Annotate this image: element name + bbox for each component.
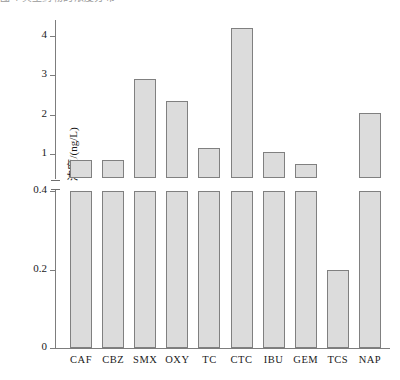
bar-segment-upper: [295, 164, 317, 178]
y-axis-tick: 2: [50, 115, 55, 116]
plot-area: 00.20.41234 浓度/(ng/L) CAFCBZSMXOXYTCCTCI…: [55, 20, 390, 349]
bar-segment-lower: [166, 191, 188, 348]
y-axis-tick: 1: [50, 154, 55, 155]
caption-fragment-text: 图 4 典型药物的浓度分布: [0, 0, 115, 3]
caption-fragment: 图 4 典型药物的浓度分布: [0, 0, 400, 9]
y-axis-tick: 0.4: [50, 191, 55, 192]
bar-segment-lower: [295, 191, 317, 348]
y-axis-tick: 0: [50, 348, 55, 349]
y-axis-tick-label: 1: [42, 147, 48, 158]
bar: [231, 20, 253, 349]
bar: [263, 20, 285, 349]
bar-segment-lower: [70, 191, 92, 348]
bar: [166, 20, 188, 349]
x-axis-tick-label: NAP: [347, 354, 393, 366]
y-axis-tick: 0.2: [50, 270, 55, 271]
bar: [327, 20, 349, 349]
bar: [134, 20, 156, 349]
y-axis-tick-label: 0.2: [33, 263, 47, 274]
bar-segment-lower: [102, 191, 124, 348]
bar-segment-upper: [102, 160, 124, 178]
bar: [198, 20, 220, 349]
bar-segment-lower: [198, 191, 220, 348]
bar-segment-upper: [166, 101, 188, 178]
bar-segment-upper: [263, 152, 285, 178]
bar-segment-lower: [327, 270, 349, 349]
bar-segment-lower: [134, 191, 156, 348]
y-axis-break-line: [51, 180, 60, 181]
bar-chart-figure: 图 4 典型药物的浓度分布 00.20.41234 浓度/(ng/L) CAFC…: [0, 0, 400, 380]
y-axis-tick-label: 4: [42, 29, 48, 40]
bar-segment-lower: [263, 191, 285, 348]
y-axis-tick-label: 0.4: [33, 184, 47, 195]
bar-segment-upper: [198, 148, 220, 178]
bar-segment-upper: [359, 113, 381, 178]
bar-segment-upper: [231, 28, 253, 178]
bar: [359, 20, 381, 349]
bar: [70, 20, 92, 349]
bar: [102, 20, 124, 349]
y-axis-break-line: [51, 189, 60, 190]
bar: [295, 20, 317, 349]
y-axis-tick-label: 0: [42, 341, 48, 352]
y-axis-tick-label: 3: [42, 68, 48, 79]
y-axis-tick-label: 2: [42, 108, 48, 119]
y-axis-tick: 4: [50, 36, 55, 37]
bar-segment-lower: [231, 191, 253, 348]
bar-segment-upper: [70, 160, 92, 178]
bar-segment-upper: [134, 79, 156, 178]
y-axis-tick: 3: [50, 75, 55, 76]
bar-segment-lower: [359, 191, 381, 348]
